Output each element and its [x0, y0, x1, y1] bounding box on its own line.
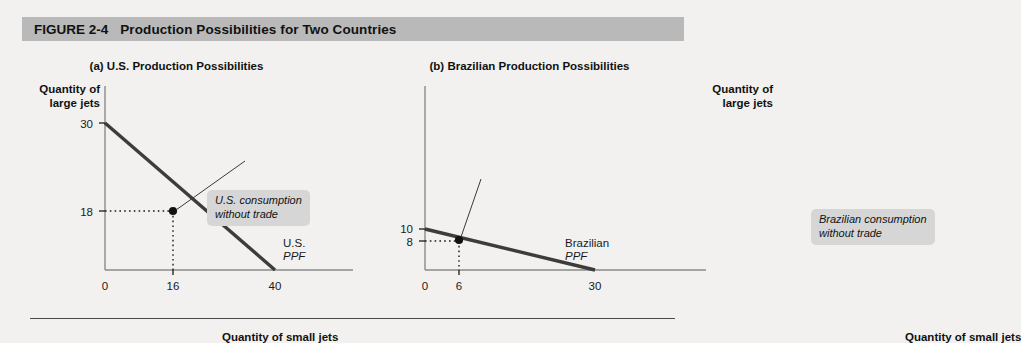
figure-header-banner: FIGURE 2-4 Production Possibilities for …	[22, 17, 684, 41]
figure-number: FIGURE 2-4	[22, 22, 108, 37]
panel-a-callout-line1: U.S. consumption	[215, 194, 302, 208]
panel-a-callout-line2: without trade	[215, 208, 302, 222]
panel-b-ppf-label-line2: PPF	[565, 250, 588, 262]
panel-b-ppf-label-line1: Brazilian	[565, 237, 609, 249]
panel-b-y-axis-label-line2: large jets	[687, 97, 773, 111]
panel-a-x-axis-label: Quantity of small jets	[222, 331, 338, 343]
panel-b-y-ticklabel-10: 10	[400, 223, 413, 235]
panel-b-x-axis-label: Quantity of small jets	[905, 331, 1021, 343]
panel-a-ppf-label-line1: U.S.	[283, 237, 305, 249]
figure-bottom-rule	[30, 318, 675, 319]
panel-a-y-ticklabel-30: 30	[80, 118, 93, 130]
panel-b-consumption-point	[455, 236, 463, 244]
panel-b-x-ticklabel-30: 30	[589, 280, 602, 292]
panel-a-x-ticklabel-0: 0	[102, 280, 108, 292]
panel-b-plot: 10 8 0 6 30 Brazilian PPF	[353, 41, 706, 311]
panel-b-y-ticklabel-8: 8	[407, 236, 413, 248]
panel-b-callout-line1: Brazilian consumption	[819, 213, 927, 227]
panel-b-callout-line2: without trade	[819, 227, 927, 241]
panel-b-x-ticklabel-6: 6	[456, 280, 462, 292]
panel-a-y-ticklabel-18: 18	[80, 206, 93, 218]
figure-title: Production Possibilities for Two Countri…	[108, 22, 396, 37]
panel-a-plot: 30 18 0 16 40 U.S. PPF	[0, 41, 353, 311]
panel-b-callout: Brazilian consumption without trade	[811, 209, 935, 245]
panel-b-x-ticklabel-0: 0	[422, 280, 428, 292]
panel-a-x-ticklabel-16: 16	[167, 280, 180, 292]
panel-b-y-axis-label: Quantity of large jets	[687, 83, 773, 110]
panel-b-y-axis-label-line1: Quantity of	[687, 83, 773, 97]
panel-brazil-production-possibilities: (b) Brazilian Production Possibilities 1…	[353, 41, 706, 311]
panel-b-callout-leader	[461, 179, 481, 237]
panel-a-callout: U.S. consumption without trade	[207, 190, 310, 226]
panel-us-production-possibilities: (a) U.S. Production Possibilities Quanti…	[0, 41, 353, 311]
panel-a-x-ticklabel-40: 40	[269, 280, 282, 292]
panel-a-ppf-label-line2: PPF	[283, 250, 306, 262]
panel-a-consumption-point	[169, 207, 177, 215]
